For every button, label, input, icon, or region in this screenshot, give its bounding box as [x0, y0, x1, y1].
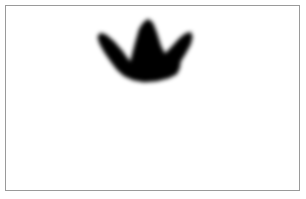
crown-blob-icon	[97, 19, 192, 82]
canvas-root	[0, 0, 306, 199]
shape-group	[97, 19, 192, 82]
shape-canvas	[6, 6, 299, 190]
image-frame	[5, 5, 300, 191]
drawing-layer	[6, 6, 299, 190]
